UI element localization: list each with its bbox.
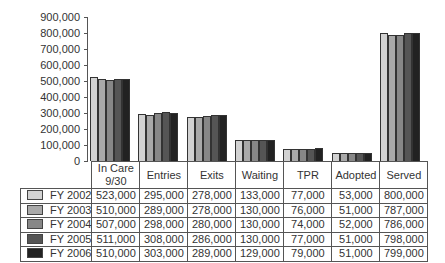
- y-tick-mark: [84, 97, 88, 98]
- table-cell: 798,000: [380, 232, 428, 247]
- table-cell: 507,000: [92, 218, 140, 233]
- bar: [195, 117, 203, 161]
- table-cell: 76,000: [284, 203, 332, 218]
- bar: [356, 153, 364, 161]
- y-tick-label: 900,000: [0, 11, 80, 23]
- bar: [170, 113, 178, 161]
- bar: [267, 140, 275, 161]
- bar: [98, 79, 106, 161]
- bar: [396, 35, 404, 161]
- y-tick-mark: [84, 145, 88, 146]
- table-cell: 130,000: [236, 232, 284, 247]
- table-cell: 53,000: [332, 189, 380, 204]
- bar: [332, 153, 340, 161]
- table-cell: 79,000: [284, 247, 332, 262]
- table-cell: 130,000: [236, 218, 284, 233]
- table-cell: 787,000: [380, 203, 428, 218]
- legend-swatch-icon: [27, 219, 43, 229]
- category-label: Waiting: [236, 162, 284, 189]
- series-name: FY 2005: [50, 233, 91, 245]
- bar: [146, 115, 154, 161]
- table-row: FY 2002 523,000 295,000 278,000 133,000 …: [21, 189, 428, 204]
- legend-swatch-icon: [27, 205, 43, 215]
- table-row: FY 2004 507,000 298,000 280,000 130,000 …: [21, 218, 428, 233]
- bar: [307, 149, 315, 161]
- bar: [412, 33, 420, 161]
- table-cell: 77,000: [284, 189, 332, 204]
- data-table: In Care 9/30 Entries Exits Waiting TPR A…: [20, 161, 428, 262]
- series-name: FY 2002: [50, 189, 91, 201]
- category-label: Exits: [188, 162, 236, 189]
- series-name: FY 2004: [50, 218, 91, 230]
- bar: [162, 112, 170, 161]
- table-cell: 130,000: [236, 203, 284, 218]
- y-tick-mark: [84, 65, 88, 66]
- category-label: In Care 9/30: [92, 162, 140, 189]
- table-cell: 298,000: [140, 218, 188, 233]
- legend-entry: FY 2002: [21, 189, 92, 204]
- table-cell: 51,000: [332, 203, 380, 218]
- table-cell: 289,000: [188, 247, 236, 262]
- category-label: TPR: [284, 162, 332, 189]
- bar: [106, 80, 114, 161]
- blank-corner: [21, 162, 92, 189]
- bar: [243, 140, 251, 161]
- table-cell: 510,000: [92, 203, 140, 218]
- y-tick-label: 800,000: [0, 27, 80, 39]
- bar: [211, 115, 219, 161]
- table-cell: 523,000: [92, 189, 140, 204]
- category-header-row: In Care 9/30 Entries Exits Waiting TPR A…: [21, 162, 428, 189]
- table-cell: 511,000: [92, 232, 140, 247]
- table-cell: 786,000: [380, 218, 428, 233]
- y-tick-mark: [84, 49, 88, 50]
- table-cell: 129,000: [236, 247, 284, 262]
- y-tick-mark: [84, 17, 88, 18]
- table-cell: 286,000: [188, 232, 236, 247]
- table-cell: 510,000: [92, 247, 140, 262]
- legend-swatch-icon: [27, 248, 43, 258]
- category-label: Adopted: [332, 162, 380, 189]
- bar: [315, 148, 323, 161]
- bar: [235, 140, 243, 161]
- y-tick-mark: [84, 129, 88, 130]
- table-cell: 295,000: [140, 189, 188, 204]
- bar: [404, 33, 412, 161]
- table-cell: 52,000: [332, 218, 380, 233]
- legend-swatch-icon: [27, 190, 43, 200]
- table-row: FY 2005 511,000 308,000 286,000 130,000 …: [21, 232, 428, 247]
- table-row: FY 2006 510,000 303,000 289,000 129,000 …: [21, 247, 428, 262]
- legend-entry: FY 2006: [21, 247, 92, 262]
- grouped-bar-chart: 0100,000200,000300,000400,000500,000600,…: [0, 0, 445, 263]
- table-cell: 289,000: [140, 203, 188, 218]
- y-tick-mark: [84, 33, 88, 34]
- bar: [291, 149, 299, 161]
- bar: [299, 149, 307, 161]
- table-row: FY 2003 510,000 289,000 278,000 130,000 …: [21, 203, 428, 218]
- bar: [122, 79, 130, 161]
- table-cell: 278,000: [188, 203, 236, 218]
- bar: [219, 115, 227, 161]
- table-cell: 51,000: [332, 247, 380, 262]
- bar: [251, 140, 259, 161]
- table-cell: 133,000: [236, 189, 284, 204]
- table-cell: 303,000: [140, 247, 188, 262]
- bar: [259, 140, 267, 161]
- y-tick-label: 600,000: [0, 59, 80, 71]
- table-cell: 74,000: [284, 218, 332, 233]
- bar: [90, 77, 98, 161]
- category-label: Served: [380, 162, 428, 189]
- y-tick-mark: [84, 113, 88, 114]
- table-cell: 280,000: [188, 218, 236, 233]
- bar: [138, 114, 146, 161]
- bar: [154, 113, 162, 161]
- series-name: FY 2003: [50, 204, 91, 216]
- series-name: FY 2006: [50, 247, 91, 259]
- bar: [348, 153, 356, 161]
- bar: [283, 149, 291, 161]
- y-axis: [87, 17, 88, 161]
- y-tick-label: 700,000: [0, 43, 80, 55]
- bar: [187, 117, 195, 161]
- y-tick-mark: [84, 81, 88, 82]
- bar: [340, 153, 348, 161]
- bar: [364, 153, 372, 161]
